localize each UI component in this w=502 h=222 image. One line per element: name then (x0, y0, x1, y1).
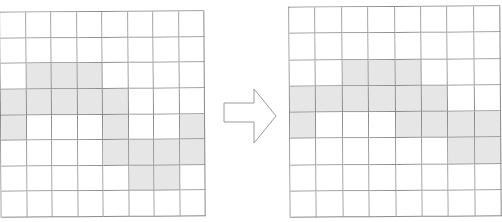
grid-cell (475, 190, 502, 216)
grid-cell (180, 191, 206, 217)
shaded-cell (342, 60, 369, 86)
grid-cell (77, 12, 103, 38)
grid-cell (103, 166, 129, 192)
shaded-cell (422, 112, 449, 138)
shaded-cell (343, 86, 370, 112)
grid-cell (179, 11, 205, 37)
grid-cell (0, 13, 26, 39)
grid-cell (78, 191, 104, 217)
grid-cell (317, 139, 344, 165)
grid-cell (27, 140, 53, 166)
grid-cell (448, 85, 475, 111)
grid-cell (316, 7, 343, 33)
grid-cell (128, 37, 154, 63)
grid-cell (395, 7, 422, 33)
shaded-cell (77, 63, 103, 89)
grid-cell (290, 60, 317, 86)
grid-cell (474, 59, 501, 85)
grid-cell (289, 8, 316, 34)
grid-cell (290, 139, 317, 165)
shaded-cell (448, 138, 475, 164)
right-grid (288, 5, 501, 217)
grid-cell (78, 140, 104, 166)
grid-cell (369, 33, 396, 59)
grid-cell (78, 166, 104, 192)
grid-cell (316, 34, 343, 60)
grid-cell (343, 112, 370, 138)
shaded-cell (180, 114, 206, 140)
arrow-right-outline-icon (222, 88, 278, 146)
shaded-cell (26, 89, 52, 115)
shaded-cell (422, 85, 449, 111)
shaded-cell (290, 113, 317, 139)
shaded-cell (395, 86, 422, 112)
grid-cell (396, 138, 423, 164)
grid-cell (422, 138, 449, 164)
grid-cell (370, 191, 397, 217)
grid-cell (448, 6, 475, 32)
grid-cell (421, 7, 448, 33)
grid-cell (395, 33, 422, 59)
grid-cell (369, 164, 396, 190)
shaded-cell (26, 64, 52, 90)
grid-cell (316, 112, 343, 138)
grid-cell (449, 164, 476, 190)
shaded-cell (52, 63, 78, 89)
grid-cell (179, 88, 205, 114)
shaded-cell (52, 89, 78, 115)
grid-cell (474, 33, 501, 59)
shaded-cell (395, 59, 422, 85)
shaded-cell (369, 86, 396, 112)
grid-cell (1, 141, 27, 167)
grid-cell (26, 12, 52, 38)
grid-cell (396, 191, 423, 217)
grid-cell (154, 63, 180, 89)
grid-cell (27, 192, 53, 218)
grid-cell (52, 140, 78, 166)
shaded-cell (396, 112, 423, 138)
grid-cell (2, 192, 28, 218)
shaded-cell (1, 89, 27, 115)
grid-cell (129, 191, 155, 217)
grid-cell (51, 12, 77, 38)
grid-cell (78, 114, 104, 140)
shaded-cell (103, 89, 129, 115)
grid-cell (51, 38, 77, 64)
grid-cell (154, 114, 180, 140)
grid-cell (153, 37, 179, 63)
grid-cell (422, 190, 449, 216)
shaded-cell (475, 138, 502, 164)
grid-cell (422, 164, 449, 190)
grid-cell (104, 191, 130, 217)
grid-cell (27, 166, 53, 192)
shaded-cell (1, 115, 27, 141)
shaded-cell (475, 111, 502, 137)
grid-cell (179, 37, 205, 63)
grid-cell (449, 190, 476, 216)
shaded-cell (290, 86, 317, 112)
shaded-cell (316, 86, 343, 112)
grid-cell (52, 166, 78, 192)
grid-cell (422, 59, 449, 85)
shaded-cell (129, 165, 155, 191)
shaded-cell (448, 111, 475, 137)
left-grid (0, 10, 206, 217)
grid-cell (1, 64, 27, 90)
grid-cell (180, 165, 206, 191)
grid-cell (343, 191, 370, 217)
grid-cell (475, 164, 502, 190)
grid-cell (448, 33, 475, 59)
grid-cell (52, 115, 78, 141)
grid-cell (102, 12, 128, 38)
grid-cell (1, 166, 27, 192)
grid-cell (369, 138, 396, 164)
shaded-cell (77, 89, 103, 115)
grid-cell (77, 38, 103, 64)
grid-cell (103, 63, 129, 89)
shaded-cell (103, 140, 129, 166)
shaded-cell (129, 140, 155, 166)
grid-cell (291, 191, 318, 217)
grid-cell (155, 191, 181, 217)
grid-cell (0, 38, 26, 64)
grid-cell (448, 59, 475, 85)
